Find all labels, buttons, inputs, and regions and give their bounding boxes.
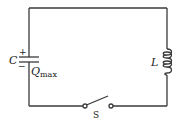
switch-terminal-right [109,104,113,108]
charge-label: Qmax [31,65,57,79]
charge-symbol: Q [31,65,40,78]
switch-lever [87,96,109,105]
inductor-coil [163,49,171,75]
capacitor-label: C [9,54,18,67]
lc-circuit-diagram: C + − Qmax L S [0,0,184,121]
minus-sign: − [18,61,26,71]
switch-label: S [93,110,99,120]
plus-sign: + [19,47,27,57]
charge-subscript: max [40,70,57,79]
inductor-label: L [150,56,158,69]
switch-symbol [83,96,113,108]
